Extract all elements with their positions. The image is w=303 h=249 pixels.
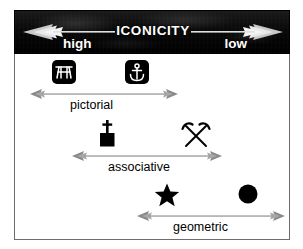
associative-label: associative (108, 160, 170, 174)
row-associative: associative (72, 120, 242, 180)
picnic-table-symbol (52, 60, 78, 86)
iconicity-header-band: ICONICITY high low (14, 10, 290, 54)
iconicity-title: ICONICITY (15, 23, 290, 38)
pictorial-label: pictorial (70, 98, 113, 112)
iconicity-low-label: low (225, 36, 248, 51)
geometric-label: geometric (173, 220, 228, 234)
anchor-badge (125, 60, 149, 84)
row-pictorial: pictorial (30, 60, 190, 120)
crossed-hammers-symbol (180, 120, 212, 146)
filled-circle-symbol (235, 182, 261, 208)
row-geometric: geometric (140, 182, 295, 242)
iconicity-high-label: high (63, 36, 92, 51)
star-symbol (154, 182, 180, 208)
anchor-symbol (125, 60, 151, 86)
figure-root: ICONICITY high low (0, 0, 303, 249)
church-symbol (94, 120, 120, 146)
picnic-table-badge (52, 60, 76, 84)
